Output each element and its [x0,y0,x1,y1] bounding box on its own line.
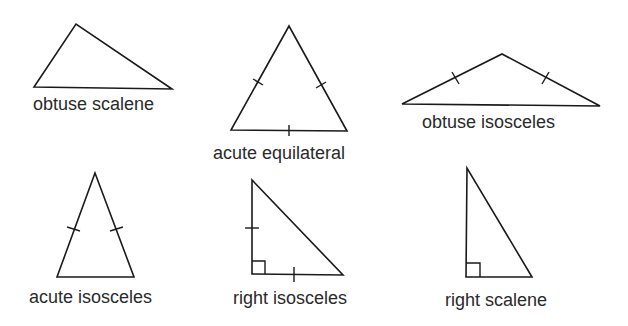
triangle-label: right isosceles [233,288,347,308]
triangle-label: acute equilateral [213,143,345,163]
triangle-shape [402,54,600,106]
triangle-acute-isosceles: acute isosceles [29,173,152,307]
triangle-label: obtuse isosceles [422,112,555,132]
triangle-shape [466,168,532,277]
triangle-shape [34,24,172,89]
right-angle-marker [466,263,480,277]
triangle-acute-equilateral: acute equilateral [213,26,347,163]
equal-side-tick [253,79,263,85]
triangle-shape [57,173,134,277]
triangle-obtuse-scalene: obtuse scalene [33,24,172,114]
triangle-label: acute isosceles [29,287,152,307]
triangle-right-isosceles: right isosceles [233,180,347,308]
triangle-right-scalene: right scalene [445,168,547,310]
triangle-label: right scalene [445,290,547,310]
triangle-shape [231,26,347,131]
triangle-label: obtuse scalene [33,94,154,114]
triangle-diagram: obtuse scalene acute equilateral obtuse … [0,0,628,326]
triangle-obtuse-isosceles: obtuse isosceles [402,54,600,132]
right-angle-marker [252,261,265,274]
